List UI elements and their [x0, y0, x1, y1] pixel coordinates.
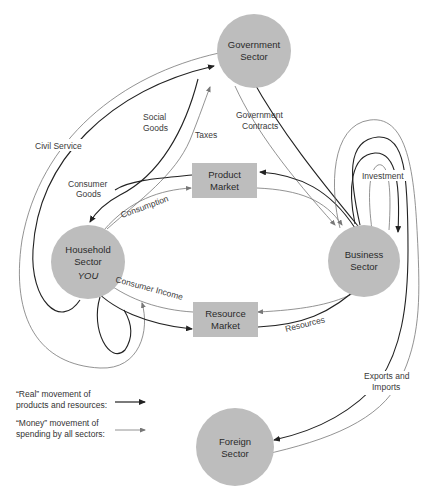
- svg-text:Contracts: Contracts: [242, 121, 278, 131]
- government-contracts-label: Government: [236, 110, 283, 120]
- legend-real-label: “Real” movement of: [16, 389, 91, 399]
- civil-service-label: Civil Service: [35, 141, 82, 151]
- svg-text:Sector: Sector: [240, 51, 267, 62]
- circular-flow-diagram: Government Sector Household Sector YOU B…: [0, 0, 447, 490]
- resource-market-node: Resource Market: [193, 302, 258, 337]
- svg-text:Business: Business: [345, 249, 384, 260]
- svg-text:products and resources:: products and resources:: [16, 400, 107, 410]
- government-sector-node: Government Sector: [217, 14, 291, 88]
- svg-text:Market: Market: [211, 320, 240, 331]
- svg-text:Foreign: Foreign: [219, 436, 251, 447]
- consumer-income-label: Consumer Income: [114, 274, 184, 302]
- svg-text:spending by all sectors:: spending by all sectors:: [16, 429, 105, 439]
- svg-text:Government: Government: [228, 39, 281, 50]
- social-goods-label: Social: [143, 112, 166, 122]
- taxes-label: Taxes: [195, 130, 217, 140]
- foreign-sector-node: Foreign Sector: [196, 408, 274, 486]
- svg-text:Product: Product: [208, 169, 241, 180]
- exports-imports-label: Exports and: [364, 371, 410, 381]
- svg-text:Market: Market: [210, 181, 239, 192]
- household-sector-node: Household Sector YOU: [51, 225, 125, 299]
- svg-text:Sector: Sector: [350, 261, 377, 272]
- svg-text:Household: Household: [65, 244, 110, 255]
- resources-label: Resources: [284, 314, 326, 334]
- government-contracts-flows: [235, 79, 358, 226]
- consumer-goods-label: Consumer: [68, 179, 107, 189]
- legend: “Real” movement of products and resource…: [16, 389, 145, 439]
- legend-money-label: “Money” movement of: [16, 418, 99, 428]
- investment-label: Investment: [362, 171, 404, 181]
- svg-text:YOU: YOU: [78, 270, 99, 281]
- product-market-node: Product Market: [192, 163, 257, 198]
- svg-text:Imports: Imports: [372, 382, 400, 392]
- svg-text:Sector: Sector: [221, 448, 248, 459]
- consumption-label: Consumption: [119, 193, 170, 220]
- svg-text:Goods: Goods: [76, 189, 101, 199]
- svg-text:Resource: Resource: [205, 308, 246, 319]
- svg-text:Sector: Sector: [74, 256, 101, 267]
- svg-text:Goods: Goods: [143, 123, 168, 133]
- business-sector-node: Business Sector: [328, 225, 400, 297]
